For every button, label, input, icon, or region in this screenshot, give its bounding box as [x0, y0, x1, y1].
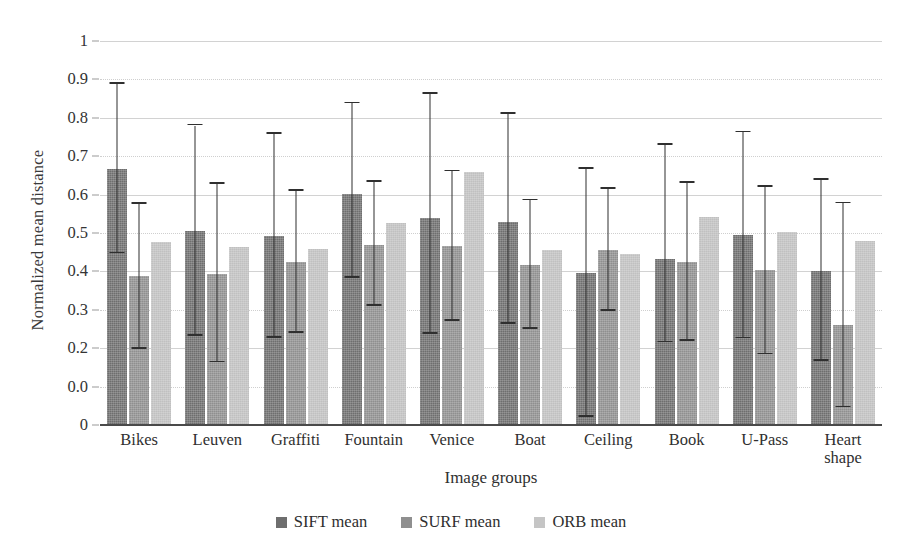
- y-tick-mark: [92, 79, 99, 80]
- error-bar-cap: [210, 361, 225, 363]
- error-bar: [508, 114, 509, 324]
- x-tick-label: U-Pass: [726, 431, 804, 467]
- error-bar-cap: [288, 189, 303, 191]
- legend-label: SURF mean: [419, 512, 500, 532]
- error-bar: [295, 191, 296, 333]
- x-axis-tick-labels: BikesLeuvenGraffitiFountainVeniceBoatCei…: [100, 431, 882, 467]
- bar-slot: [151, 41, 171, 425]
- error-bar: [686, 183, 687, 341]
- error-bar-cap: [344, 102, 359, 104]
- error-bar-cap: [266, 336, 281, 338]
- bar[interactable]: [151, 242, 171, 425]
- bar-slot: [342, 41, 362, 425]
- error-bar-cap: [110, 252, 125, 254]
- bar-slot: [185, 41, 205, 425]
- bar[interactable]: [308, 249, 328, 425]
- legend-swatch-surf: [401, 517, 412, 528]
- error-bar: [117, 84, 118, 253]
- bar-slot: [207, 41, 227, 425]
- x-tick-label: Graffiti: [256, 431, 334, 467]
- bar-slot: [442, 41, 462, 425]
- x-tick-label: Book: [647, 431, 725, 467]
- error-bar-cap: [657, 143, 672, 145]
- bar-slot: [777, 41, 797, 425]
- y-tick-mark: [92, 348, 99, 349]
- x-tick-label: Venice: [413, 431, 491, 467]
- error-bar-cap: [679, 339, 694, 341]
- error-bar-cap: [579, 415, 594, 417]
- bar-slot: [498, 41, 518, 425]
- y-tick-label: 0.6: [28, 185, 88, 205]
- error-bar-cap: [444, 170, 459, 172]
- bar-slot: [699, 41, 719, 425]
- error-bar: [764, 187, 765, 355]
- error-bar-cap: [601, 309, 616, 311]
- error-bar: [530, 200, 531, 328]
- error-bar-cap: [757, 185, 772, 187]
- y-tick-mark: [92, 156, 99, 157]
- error-bar: [217, 184, 218, 363]
- error-bar-cap: [444, 319, 459, 321]
- y-tick-label: 0.8: [28, 108, 88, 128]
- error-bar-cap: [344, 276, 359, 278]
- y-tick-label: 0.9: [28, 69, 88, 89]
- error-bar-cap: [422, 332, 437, 334]
- error-bar: [373, 182, 374, 306]
- error-bar-cap: [366, 304, 381, 306]
- bar-slot: [833, 41, 853, 425]
- legend-label: ORB mean: [552, 512, 626, 532]
- legend-item[interactable]: ORB mean: [534, 512, 626, 532]
- bar[interactable]: [229, 247, 249, 425]
- bar-slot: [129, 41, 149, 425]
- legend-item[interactable]: SURF mean: [401, 512, 500, 532]
- error-bar-cap: [813, 178, 828, 180]
- legend-label: SIFT mean: [294, 512, 368, 532]
- bar-slot: [229, 41, 249, 425]
- bar-slot: [520, 41, 540, 425]
- bar[interactable]: [464, 172, 484, 425]
- error-bar-cap: [188, 334, 203, 336]
- bar-slot: [620, 41, 640, 425]
- error-bar: [742, 132, 743, 338]
- bar-group: [256, 41, 334, 425]
- error-bar-cap: [757, 353, 772, 355]
- error-bar-cap: [601, 187, 616, 189]
- x-tick-label: Fountain: [335, 431, 413, 467]
- error-bar-cap: [132, 202, 147, 204]
- bar-slot: [755, 41, 775, 425]
- bar-slot: [464, 41, 484, 425]
- bar-slot: [308, 41, 328, 425]
- error-bar-cap: [735, 337, 750, 339]
- error-bar-cap: [835, 202, 850, 204]
- y-tick-label: 0.5: [28, 223, 88, 243]
- error-bar-cap: [579, 167, 594, 169]
- y-tick-mark: [92, 309, 99, 310]
- y-tick-mark: [92, 41, 99, 42]
- x-tick-label: Boat: [491, 431, 569, 467]
- error-bar: [820, 180, 821, 361]
- error-bar: [429, 94, 430, 334]
- bar[interactable]: [699, 217, 719, 426]
- error-bar-cap: [266, 132, 281, 134]
- bar-slot: [811, 41, 831, 425]
- bar-group: [335, 41, 413, 425]
- bar-group: [413, 41, 491, 425]
- bar[interactable]: [855, 241, 875, 425]
- error-bar-cap: [132, 347, 147, 349]
- bar-group: [647, 41, 725, 425]
- error-bar-cap: [657, 341, 672, 343]
- bar-slot: [364, 41, 384, 425]
- bar[interactable]: [620, 254, 640, 425]
- error-bar: [273, 134, 274, 338]
- bar[interactable]: [386, 223, 406, 425]
- legend-item[interactable]: SIFT mean: [276, 512, 368, 532]
- error-bar-cap: [366, 180, 381, 182]
- error-bar-cap: [210, 182, 225, 184]
- bar[interactable]: [542, 250, 562, 425]
- bar-slot: [677, 41, 697, 425]
- bar-slot: [420, 41, 440, 425]
- x-tick-label: Bikes: [100, 431, 178, 467]
- bar-group: [569, 41, 647, 425]
- error-bar-cap: [110, 82, 125, 84]
- bar[interactable]: [777, 232, 797, 425]
